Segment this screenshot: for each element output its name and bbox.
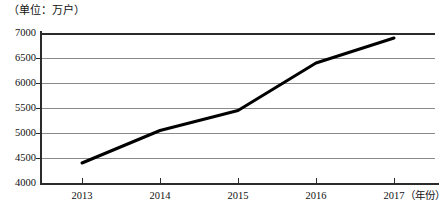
y-tick-mark [36,133,41,134]
y-tick-mark [36,108,41,109]
series-line-wanhu [82,38,394,163]
data-series-layer [0,0,443,217]
y-tick-mark [36,158,41,159]
y-tick-mark [36,83,41,84]
y-tick-mark [36,58,41,59]
line-chart-figure: （单位：万户） 4000450050005500600065007000 201… [0,0,443,217]
